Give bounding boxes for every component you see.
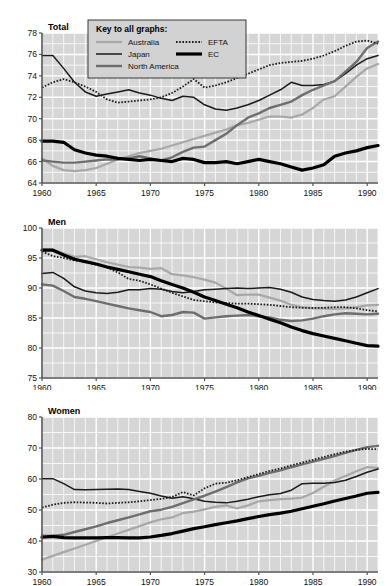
panel-title-men: Men: [48, 217, 66, 227]
x-tick-label: 1970: [141, 577, 160, 586]
y-tick-label: 90: [28, 283, 38, 293]
x-tick-label: 1985: [304, 383, 323, 390]
y-tick-label: 75: [28, 373, 38, 383]
legend-label-australia: Australia: [128, 38, 160, 47]
y-tick-label: 50: [28, 505, 38, 515]
legend-label-northamerica: North America: [128, 62, 179, 71]
x-tick-label: 1965: [87, 383, 106, 390]
chart-svg-women: 3040506070801960196519701975198019851990…: [0, 390, 387, 586]
y-tick-label: 78: [28, 28, 38, 38]
x-tick-label: 1975: [195, 188, 214, 198]
legend-label-ec: EC: [208, 50, 219, 59]
y-tick-label: 70: [28, 114, 38, 124]
panel-title-women: Women: [48, 406, 80, 416]
y-tick-label: 64: [28, 178, 38, 188]
y-tick-label: 66: [28, 157, 38, 167]
y-tick-label: 30: [28, 567, 38, 577]
y-tick-label: 60: [28, 474, 38, 484]
chart-svg-men: 7580859095100196019651970197519801985199…: [0, 200, 387, 390]
y-tick-label: 95: [28, 253, 38, 263]
legend-label-japan: Japan: [128, 50, 150, 59]
legend-label-efta: EFTA: [208, 38, 229, 47]
x-tick-label: 1975: [195, 383, 214, 390]
chart-svg-total: 6466687072747678196019651970197519801985…: [0, 0, 387, 200]
x-tick-label: 1980: [249, 188, 268, 198]
y-tick-label: 70: [28, 443, 38, 453]
x-tick-label: 1970: [141, 383, 160, 390]
y-tick-label: 68: [28, 135, 38, 145]
x-tick-label: 1975: [195, 577, 214, 586]
y-tick-label: 72: [28, 92, 38, 102]
chart-panel-men: 7580859095100196019651970197519801985199…: [0, 200, 387, 390]
y-tick-label: 76: [28, 49, 38, 59]
y-tick-label: 80: [28, 343, 38, 353]
x-tick-label: 1960: [33, 188, 52, 198]
chart-panel-women: 3040506070801960196519701975198019851990…: [0, 390, 387, 586]
y-tick-label: 74: [28, 71, 38, 81]
x-tick-label: 1960: [33, 383, 52, 390]
y-tick-label: 40: [28, 536, 38, 546]
x-tick-label: 1985: [304, 577, 323, 586]
x-tick-label: 1990: [358, 383, 377, 390]
y-tick-label: 85: [28, 313, 38, 323]
x-tick-label: 1985: [304, 188, 323, 198]
x-tick-label: 1970: [141, 188, 160, 198]
x-tick-label: 1960: [33, 577, 52, 586]
x-tick-label: 1965: [87, 577, 106, 586]
y-tick-label: 100: [23, 223, 37, 233]
legend-title: Key to all graphs:: [96, 24, 167, 34]
x-tick-label: 1965: [87, 188, 106, 198]
x-tick-label: 1980: [249, 383, 268, 390]
legend: Key to all graphs:AustraliaJapanNorth Am…: [88, 20, 246, 78]
x-tick-label: 1990: [358, 577, 377, 586]
triple-line-chart-figure: 6466687072747678196019651970197519801985…: [0, 0, 387, 586]
x-tick-label: 1990: [358, 188, 377, 198]
chart-panel-total: 6466687072747678196019651970197519801985…: [0, 0, 387, 200]
panel-title-total: Total: [48, 22, 69, 32]
y-tick-label: 80: [28, 412, 38, 422]
x-tick-label: 1980: [249, 577, 268, 586]
